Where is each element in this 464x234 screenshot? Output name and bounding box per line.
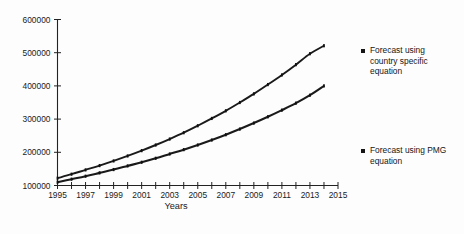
chart-legend: Forecast using country specific equation… xyxy=(355,0,464,234)
series-point-marker xyxy=(127,164,129,167)
series-point-marker xyxy=(71,173,73,176)
legend-item-pmg: Forecast using PMG equation xyxy=(361,145,452,166)
series-point-marker xyxy=(155,143,157,146)
x-tick-label: 2005 xyxy=(188,190,207,200)
series-markers-country-specific xyxy=(57,44,325,180)
x-axis-ticks xyxy=(58,182,339,189)
x-axis-title: Years xyxy=(164,201,188,211)
x-tick-label: 1999 xyxy=(104,190,123,200)
series-point-marker xyxy=(281,109,283,112)
x-tick-label: 2009 xyxy=(245,190,264,200)
legend-item-label: Forecast using PMG equation xyxy=(370,145,452,166)
series-point-marker xyxy=(239,101,241,104)
series-point-marker xyxy=(113,168,115,171)
series-point-marker xyxy=(323,44,325,47)
series-point-marker xyxy=(197,143,199,146)
x-tick-label: 2015 xyxy=(329,190,348,200)
chart-screenshot: 600000500000400000300000200000100000 199… xyxy=(0,0,464,234)
series-point-marker xyxy=(197,124,199,127)
series-point-marker xyxy=(113,159,115,162)
series-point-marker xyxy=(267,115,269,118)
series-point-marker xyxy=(169,152,171,155)
series-point-marker xyxy=(57,181,59,184)
series-point-marker xyxy=(309,52,311,55)
square-marker-icon xyxy=(361,149,365,153)
legend-item-label: Forecast using country specific equation xyxy=(370,45,452,77)
series-point-marker xyxy=(295,102,297,105)
series-point-marker xyxy=(57,177,59,180)
series-markers-pmg xyxy=(57,84,325,183)
series-point-marker xyxy=(309,94,311,97)
series-line-country-specific xyxy=(58,46,324,178)
series-point-marker xyxy=(169,137,171,140)
x-tick-label: 2011 xyxy=(273,190,291,200)
square-marker-icon xyxy=(361,49,365,53)
y-tick-label: 400000 xyxy=(23,81,51,91)
series-point-marker xyxy=(85,168,87,171)
series-point-marker xyxy=(253,121,255,124)
series-point-marker xyxy=(71,178,73,181)
y-axis: 600000500000400000300000200000100000 xyxy=(23,15,61,191)
y-tick-label: 500000 xyxy=(23,48,51,58)
series-point-marker xyxy=(141,149,143,152)
y-tick-label: 200000 xyxy=(23,147,51,157)
x-tick-label: 1997 xyxy=(76,190,95,200)
x-tick-label: 2013 xyxy=(301,190,320,200)
y-tick-label: 300000 xyxy=(23,114,51,124)
series-point-marker xyxy=(99,164,101,167)
series-point-marker xyxy=(183,148,185,151)
series-point-marker xyxy=(239,127,241,130)
series-point-marker xyxy=(211,117,213,120)
series-point-marker xyxy=(225,109,227,112)
y-tick-label: 600000 xyxy=(23,15,51,25)
x-axis: 1995199719992001200320052007200920112013… xyxy=(48,182,347,200)
series-point-marker xyxy=(99,171,101,174)
x-tick-label: 2007 xyxy=(216,190,235,200)
series-point-marker xyxy=(225,133,227,136)
series-point-marker xyxy=(253,92,255,95)
series-point-marker xyxy=(85,175,87,178)
series-point-marker xyxy=(155,157,157,160)
x-tick-label: 1995 xyxy=(48,190,67,200)
series-point-marker xyxy=(141,161,143,164)
series-point-marker xyxy=(127,154,129,157)
x-axis-tick-labels: 1995199719992001200320052007200920112013… xyxy=(48,190,347,200)
y-axis-tick-labels: 600000500000400000300000200000100000 xyxy=(23,15,51,191)
series-point-marker xyxy=(267,83,269,86)
series-point-marker xyxy=(183,131,185,134)
x-tick-label: 2003 xyxy=(160,190,179,200)
series-group xyxy=(57,44,325,184)
x-tick-label: 2001 xyxy=(132,190,151,200)
legend-item-country-specific: Forecast using country specific equation xyxy=(361,45,452,77)
series-point-marker xyxy=(295,63,297,66)
y-tick-label: 100000 xyxy=(23,181,51,191)
series-line-pmg xyxy=(58,86,324,182)
series-point-marker xyxy=(323,84,325,87)
series-point-marker xyxy=(211,138,213,141)
series-point-marker xyxy=(281,73,283,76)
